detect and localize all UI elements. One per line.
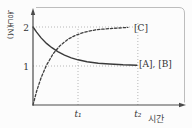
y-axis-arrow-icon [31,8,35,15]
x-tick-t2: t₂ [134,109,142,119]
y-tick-1: 1 [23,62,29,72]
series-ab-curve [33,27,137,65]
figure-frame [36,8,185,103]
y-tick-2: 2 [23,23,29,33]
x-axis-arrow-icon [179,103,186,107]
series-ab-label: [A], [B] [139,59,172,69]
x-axis-label: 시간 [148,114,164,124]
concentration-time-graph: 농 도 (M) 2 1 t₁ t₂ [C] [A], [B] 시간 [0,0,192,128]
series-c-curve [33,27,128,105]
x-tick-t1: t₁ [74,109,81,119]
series-c-label: [C] [134,23,148,33]
plot-area: 2 1 t₁ t₂ [C] [A], [B] 시간 [0,0,192,128]
